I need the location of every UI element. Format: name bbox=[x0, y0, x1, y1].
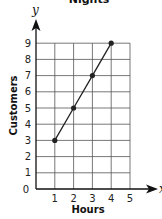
y-axis-label: Customers bbox=[8, 71, 19, 141]
data-point-marker bbox=[71, 105, 76, 110]
y-tick-label: 8 bbox=[25, 54, 31, 65]
x-tick-label: 1 bbox=[52, 193, 58, 204]
y-tick-label: 2 bbox=[25, 151, 31, 162]
x-axis-label: Hours bbox=[58, 204, 118, 215]
y-tick-label: 9 bbox=[25, 38, 31, 49]
origin-label: 0 bbox=[23, 184, 29, 195]
x-tick-label: 4 bbox=[108, 193, 114, 204]
x-tick-label: 2 bbox=[70, 193, 76, 204]
y-tick-label: 1 bbox=[25, 167, 31, 178]
x-axis-symbol: x bbox=[159, 182, 162, 196]
x-tick-label: 5 bbox=[127, 193, 133, 204]
y-tick-label: 3 bbox=[25, 135, 31, 146]
x-tick-label: 3 bbox=[89, 193, 95, 204]
plot-area: xy012345123456789 bbox=[0, 0, 162, 219]
y-tick-label: 6 bbox=[25, 86, 31, 97]
y-axis-symbol: y bbox=[31, 3, 39, 17]
data-point-marker bbox=[52, 138, 57, 143]
y-tick-label: 4 bbox=[25, 119, 31, 130]
y-tick-label: 5 bbox=[25, 103, 31, 114]
data-point-marker bbox=[109, 41, 114, 46]
data-point-marker bbox=[90, 73, 95, 78]
y-tick-label: 7 bbox=[25, 70, 31, 81]
